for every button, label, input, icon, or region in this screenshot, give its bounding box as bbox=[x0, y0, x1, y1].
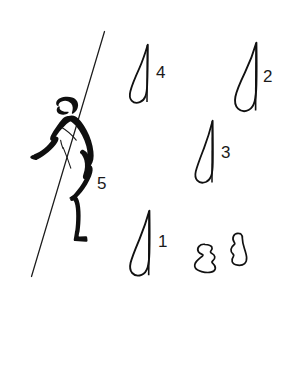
label-2: 2 bbox=[263, 67, 272, 86]
label-5: 5 bbox=[97, 174, 106, 193]
plate-canvas: 1 2 3 4 5 bbox=[0, 0, 294, 374]
label-3: 3 bbox=[221, 143, 230, 162]
label-4: 4 bbox=[156, 63, 165, 82]
archaeological-plate: 1 2 3 4 5 bbox=[0, 0, 294, 374]
label-1: 1 bbox=[158, 232, 167, 251]
